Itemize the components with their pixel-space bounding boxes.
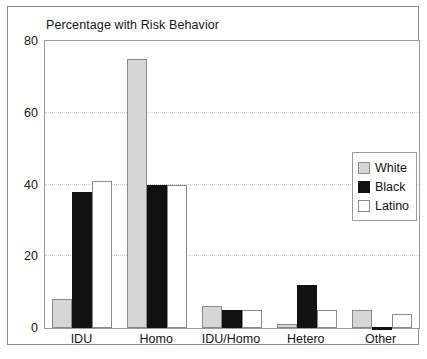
bar-idu-homo-latino — [242, 310, 262, 328]
y-tick-label: 60 — [24, 106, 38, 120]
figure-frame: Percentage with Risk Behavior 020406080 … — [7, 6, 419, 345]
legend-item-white[interactable]: White — [358, 158, 409, 177]
bar-idu-homo-black — [222, 310, 242, 328]
legend-item-latino[interactable]: Latino — [358, 196, 409, 215]
bar-hetero-latino — [317, 310, 337, 328]
x-tick-label: IDU — [71, 332, 93, 346]
bar-homo-latino — [167, 185, 187, 329]
bar-group-idu — [45, 41, 120, 328]
legend-swatch-icon — [358, 162, 370, 174]
bar-group-idu-homo — [195, 41, 270, 328]
bar-homo-white — [127, 59, 147, 328]
legend-item-label: White — [375, 161, 407, 175]
y-axis: 020406080 — [8, 40, 41, 329]
y-tick-label: 0 — [31, 321, 38, 335]
legend-item-label: Latino — [375, 199, 409, 213]
bar-other-latino — [392, 314, 412, 328]
bar-group-hetero — [269, 41, 344, 328]
legend-swatch-icon — [358, 200, 370, 212]
x-tick-label: Hetero — [287, 332, 325, 346]
y-tick-label: 20 — [24, 249, 38, 263]
legend-item-black[interactable]: Black — [358, 177, 409, 196]
bar-idu-white — [52, 299, 72, 328]
chart-legend: WhiteBlackLatino — [352, 152, 417, 221]
legend-item-label: Black — [375, 180, 406, 194]
chart-title: Percentage with Risk Behavior — [46, 18, 219, 32]
x-axis: IDUHomoIDU/HomoHeteroOther — [44, 332, 420, 354]
bar-hetero-white — [277, 324, 297, 328]
x-tick-label: Other — [365, 332, 396, 346]
bar-other-white — [352, 310, 372, 328]
bar-idu-latino — [92, 181, 112, 328]
bar-other-black — [372, 327, 392, 330]
x-tick-label: Homo — [140, 332, 173, 346]
x-tick-label: IDU/Homo — [202, 332, 260, 346]
bar-idu-homo-white — [202, 306, 222, 328]
legend-swatch-icon — [358, 181, 370, 193]
y-tick-label: 80 — [24, 34, 38, 48]
bar-hetero-black — [297, 285, 317, 328]
y-tick-label: 40 — [24, 178, 38, 192]
bar-idu-black — [72, 192, 92, 328]
bar-homo-black — [147, 185, 167, 329]
bar-group-homo — [120, 41, 195, 328]
